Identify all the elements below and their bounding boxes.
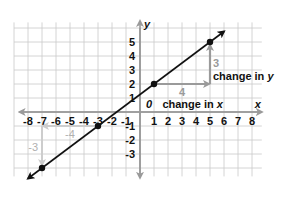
y-tick-label: 4 (129, 50, 136, 62)
x-axis-label: x (254, 98, 262, 110)
y-tick-label: 5 (129, 36, 135, 48)
x-tick-label: 2 (165, 115, 171, 127)
x-tick-label: 8 (249, 115, 255, 127)
x-tick-label: 6 (221, 115, 227, 127)
y-tick-label: -2 (125, 134, 135, 146)
y-axis-label: y (143, 18, 151, 30)
y-tick-label: 2 (129, 78, 135, 90)
x-tick-label: 7 (235, 115, 241, 127)
data-point (207, 39, 213, 45)
x-tick-label: 1 (151, 115, 157, 127)
data-point (95, 123, 101, 129)
run-label: 4 (179, 86, 186, 98)
rise-label: 3 (213, 57, 219, 69)
rise-label-negative: -3 (28, 141, 38, 153)
x-tick-label: 5 (207, 115, 213, 127)
x-tick-label: -2 (107, 115, 117, 127)
y-tick-label: -3 (125, 148, 135, 160)
origin-label: 0 (146, 98, 153, 110)
tick-labels: -8-7-6-5-4-3-2-112345678-3-2-1123450xy (23, 18, 262, 160)
change-in-x-label: change in x (162, 98, 223, 110)
data-point (39, 165, 45, 171)
data-point (151, 81, 157, 87)
y-tick-label: 3 (129, 64, 135, 76)
x-tick-label: 4 (193, 115, 200, 127)
run-label-negative: -4 (65, 128, 75, 140)
coordinate-graph: -8-7-6-5-4-3-2-112345678-3-2-1123450xy 4… (0, 0, 281, 198)
y-tick-label: -1 (125, 120, 135, 132)
x-tick-label: 3 (179, 115, 185, 127)
grid-lines (14, 22, 262, 176)
change-in-y-label: change in y (213, 70, 274, 82)
x-tick-label: -8 (23, 115, 33, 127)
chart-svg: -8-7-6-5-4-3-2-112345678-3-2-1123450xy 4… (0, 0, 281, 198)
